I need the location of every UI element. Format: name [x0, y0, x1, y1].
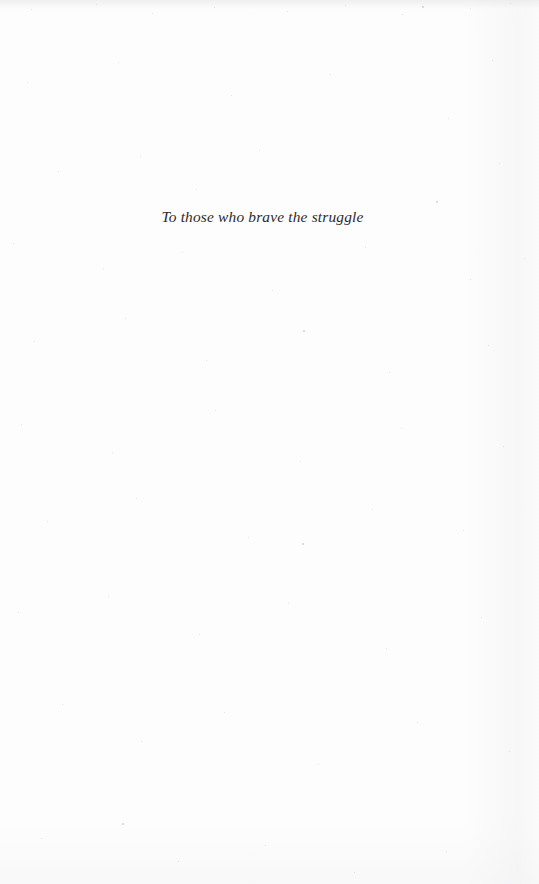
- scan-speckle-texture: [0, 0, 539, 884]
- paper-scan-shading: [0, 0, 539, 884]
- dedication-page: To those who brave the struggle: [0, 0, 539, 884]
- dedication-text: To those who brave the struggle: [161, 206, 363, 228]
- dedication-block: To those who brave the struggle: [0, 206, 539, 228]
